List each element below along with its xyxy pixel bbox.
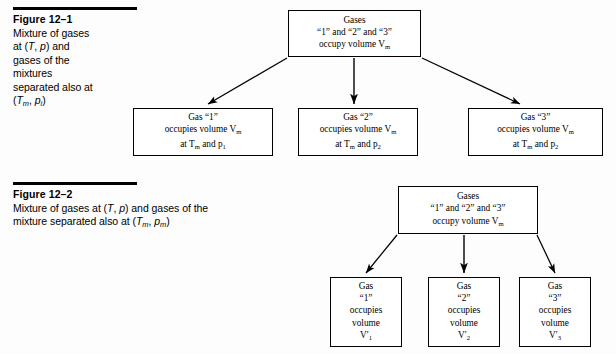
box-line: at Tm and p2 <box>513 138 559 153</box>
box-line: at Tm and p2 <box>335 138 381 153</box>
caption-line: separated also at <box>13 81 137 95</box>
box-line: Gas “1” <box>188 111 218 123</box>
figure-12-1-caption: Figure 12–1 Mixture of gases at (T, p) a… <box>13 7 137 111</box>
caption-line: Mixture of gases at (T, p) and gases of … <box>13 202 285 216</box>
box-line: occupies <box>539 304 572 316</box>
figure-12-2-top-box: Gases “1” and “2” and “3” occupy volume … <box>398 186 538 234</box>
box-line: “3” <box>549 292 562 304</box>
figure-12-1-top-box: Gases “1” and “2” and “3” occupy volume … <box>288 10 421 57</box>
box-line: “1” and “2” and “3” <box>431 202 506 214</box>
box-line: “1” and “2” and “3” <box>317 26 392 38</box>
box-line: Gas “2” <box>343 111 373 123</box>
figure-12-2-label: Figure 12–2 <box>13 188 285 202</box>
box-line: volume <box>541 317 569 329</box>
box-line: occupies <box>448 304 481 316</box>
box-line: V′3 <box>549 329 561 344</box>
box-line: volume <box>450 317 478 329</box>
caption-line: mixture separated also at (Tm, pm) <box>13 215 285 232</box>
box-line: occupies volume Vm <box>320 123 397 138</box>
box-line: occupies volume Vm <box>165 123 242 138</box>
figure-12-2-caption-text: Mixture of gases at (T, p) and gases of … <box>13 202 285 232</box>
caption-line: (Tm, pi) <box>13 94 137 111</box>
box-line: Gases <box>457 190 479 202</box>
figure-12-1-label: Figure 12–1 <box>13 13 137 27</box>
caption-line: at (T, p) and <box>13 40 137 54</box>
figure-12-2-gas-3-box: Gas “3” occupies volume V′3 <box>519 277 591 347</box>
figure-page: Figure 12–1 Mixture of gases at (T, p) a… <box>0 0 616 354</box>
figure-12-1-gas-1-box: Gas “1” occupies volume Vm at Tm and p1 <box>133 108 273 156</box>
box-line: occupies <box>350 304 383 316</box>
box-line: volume <box>352 317 380 329</box>
figure-12-2-caption: Figure 12–2 Mixture of gases at (T, p) a… <box>13 182 285 232</box>
box-line: “1” <box>360 292 373 304</box>
figure-12-1-gas-3-box: Gas “3” occupies volume Vm at Tm and p2 <box>468 108 603 156</box>
box-line: Gas <box>359 280 373 292</box>
caption-line: mixtures <box>13 67 137 81</box>
box-line: occupies volume Vm <box>497 123 574 138</box>
box-line: Gas “3” <box>521 111 551 123</box>
box-line: V′2 <box>458 329 470 344</box>
figure-12-2-gas-1-box: Gas “1” occupies volume V′1 <box>330 277 402 347</box>
figure-12-1-gas-2-box: Gas “2” occupies volume Vm at Tm and p2 <box>298 108 418 156</box>
caption-rule <box>13 182 137 185</box>
box-line: Gas <box>457 280 471 292</box>
box-line: occupy volume Vm <box>319 38 390 53</box>
box-line: Gas <box>548 280 562 292</box>
caption-line: Mixture of gases <box>13 27 137 41</box>
box-line: occupy volume Vm <box>432 215 503 230</box>
figure-12-1-caption-text: Mixture of gases at (T, p) and gases of … <box>13 27 137 112</box>
figure-12-2-gas-2-box: Gas “2” occupies volume V′2 <box>428 277 500 347</box>
box-line: at Tm and p1 <box>180 138 226 153</box>
caption-rule <box>13 7 137 10</box>
box-line: V′1 <box>360 329 372 344</box>
box-line: “2” <box>458 292 471 304</box>
box-line: Gases <box>343 14 365 26</box>
caption-line: gases of the <box>13 54 137 68</box>
